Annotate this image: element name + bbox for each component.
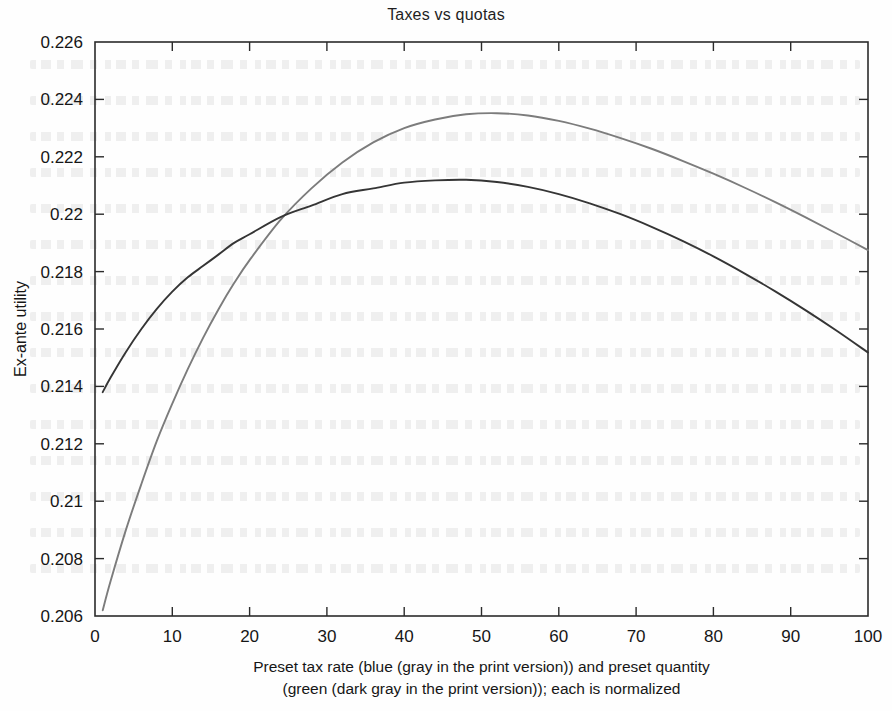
x-tick-label: 10	[163, 627, 182, 646]
y-tick-label: 0.216	[40, 320, 83, 339]
y-tick-label: 0.214	[40, 377, 83, 396]
x-tick-label: 0	[90, 627, 99, 646]
y-tick-label: 0.208	[40, 550, 83, 569]
x-tick-label: 70	[627, 627, 646, 646]
x-tick-label: 90	[781, 627, 800, 646]
x-axis-caption-line: Preset tax rate (blue (gray in the print…	[253, 658, 710, 675]
x-tick-label: 20	[240, 627, 259, 646]
y-tick-label: 0.21	[50, 492, 83, 511]
y-tick-label: 0.206	[40, 607, 83, 626]
plot-frame	[95, 42, 868, 616]
y-tick-label: 0.222	[40, 148, 83, 167]
x-tick-label: 40	[395, 627, 414, 646]
x-tick-label: 80	[704, 627, 723, 646]
series-line-0	[103, 113, 868, 610]
y-tick-label: 0.22	[50, 205, 83, 224]
x-axis-caption-line: (green (dark gray in the print version))…	[282, 680, 680, 697]
y-tick-label: 0.224	[40, 90, 83, 109]
x-tick-label: 50	[472, 627, 491, 646]
x-tick-label: 30	[317, 627, 336, 646]
x-tick-label: 60	[549, 627, 568, 646]
series-line-1	[103, 180, 868, 392]
y-axis-title: Ex-ante utility	[12, 281, 29, 377]
y-tick-label: 0.226	[40, 33, 83, 52]
figure-container: Taxes vs quotas 01020304050607080901000.…	[0, 0, 892, 711]
x-tick-label: 100	[854, 627, 882, 646]
y-tick-label: 0.212	[40, 435, 83, 454]
y-tick-label: 0.218	[40, 263, 83, 282]
chart-plot: 01020304050607080901000.2060.2080.210.21…	[0, 0, 892, 711]
